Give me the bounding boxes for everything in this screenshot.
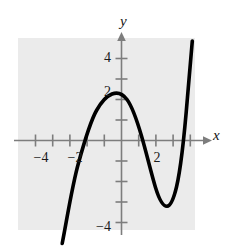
cubic-graph-svg	[0, 0, 235, 251]
y-tick-label-4: 4	[97, 51, 111, 65]
y-axis-arrow-icon	[117, 32, 126, 41]
plot-background	[18, 38, 195, 230]
x-tick-label-pos2: 2	[150, 151, 164, 165]
x-axis-arrow-icon	[203, 136, 212, 145]
y-tick-label-2: 2	[97, 85, 111, 99]
graph-figure: y x −4 −2 2 4 2 −4	[0, 0, 235, 251]
y-axis-label: y	[120, 14, 127, 29]
x-axis-label: x	[213, 128, 220, 143]
y-tick-label-neg4: −4	[84, 220, 111, 234]
x-tick-label-neg2: −2	[63, 151, 87, 165]
x-tick-label-neg4: −4	[29, 151, 53, 165]
